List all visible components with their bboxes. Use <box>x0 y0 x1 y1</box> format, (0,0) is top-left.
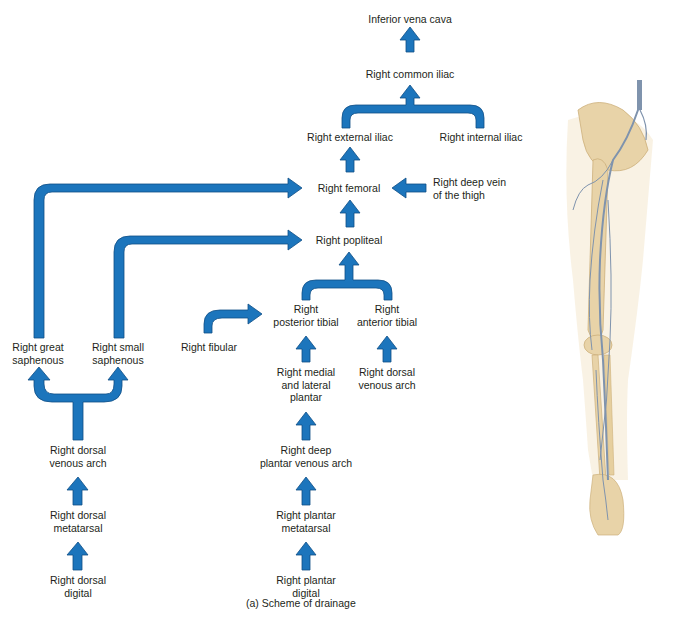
label-dorsal-venous-arch: Right dorsalvenous arch <box>49 444 106 469</box>
arrow-up-icon <box>296 412 316 440</box>
label-dorsal-digital: Right dorsaldigital <box>50 574 106 599</box>
arrow-up-icon <box>67 542 88 570</box>
label-small-saphenous: Right smallsaphenous <box>92 341 144 366</box>
label-internal-iliac: Right internal iliac <box>440 131 523 144</box>
leg-venous-anatomy-illustration <box>548 80 673 550</box>
bracket-arrow-iliac-icon <box>342 85 484 128</box>
venous-drainage-diagram: .a { fill: #1c75bc; stroke: #0f4e85; str… <box>0 0 673 621</box>
arrow-up-icon <box>400 27 420 52</box>
arrow-up-icon <box>296 542 316 570</box>
label-plantar-metatarsal: Right plantarmetatarsal <box>276 509 336 534</box>
label-femoral: Right femoral <box>318 182 380 195</box>
arrow-up-icon <box>340 200 360 227</box>
label-great-saphenous: Right greatsaphenous <box>12 341 63 366</box>
label-fibular: Right fibular <box>181 341 237 354</box>
label-inferior-vena-cava: Inferior vena cava <box>368 13 451 26</box>
arrow-up-icon <box>340 147 360 172</box>
label-deep-vein-thigh: Right deep veinof the thigh <box>433 176 506 201</box>
label-external-iliac: Right external iliac <box>307 131 393 144</box>
figure-caption: (a) Scheme of drainage <box>246 597 356 609</box>
label-common-iliac: Right common iliac <box>366 68 455 81</box>
arrow-left-icon <box>392 178 426 198</box>
label-anterior-tibial: Rightanterior tibial <box>357 303 417 328</box>
arrow-up-icon <box>377 336 397 362</box>
label-deep-plantar-arch: Right deepplantar venous arch <box>260 444 352 469</box>
arrow-up-icon <box>296 336 316 362</box>
label-medial-lateral-plantar: Right medialand lateralplantar <box>277 366 335 404</box>
fork-arrow-saphenous-icon <box>28 367 128 440</box>
label-popliteal: Right popliteal <box>316 234 383 247</box>
label-plantar-digital: Right plantardigital <box>276 574 336 599</box>
label-dorsal-metatarsal: Right dorsalmetatarsal <box>50 509 106 534</box>
label-posterior-tibial: Rightposterior tibial <box>273 303 338 328</box>
elbow-arrow-fibular-icon <box>204 304 262 333</box>
label-dorsal-venous-arch-anterior: Right dorsalvenous arch <box>358 366 415 391</box>
arrow-up-icon <box>67 477 88 505</box>
bracket-arrow-tibial-icon <box>302 252 392 300</box>
arrow-up-icon <box>296 477 316 505</box>
